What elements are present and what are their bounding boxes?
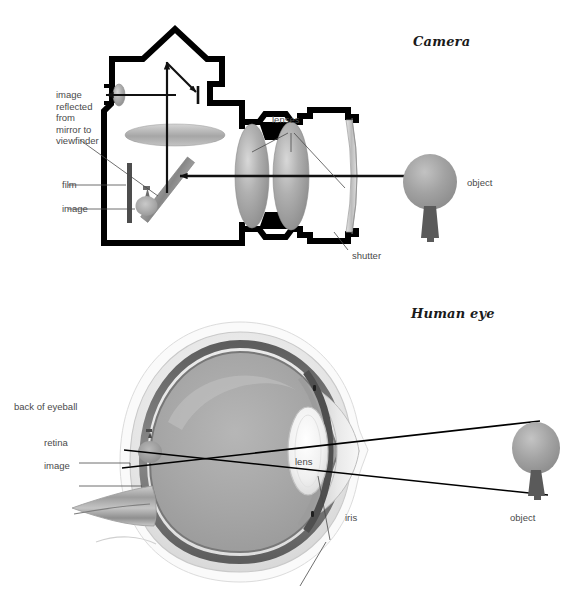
label-eye-image: image bbox=[44, 460, 70, 472]
focusing-screen bbox=[125, 124, 225, 146]
label-line-1: image bbox=[56, 89, 82, 100]
iris-anchor-bottom bbox=[311, 511, 314, 517]
leader-image-reflected bbox=[80, 140, 158, 196]
human-eye-figure: Human eye back of eyeball retina image l… bbox=[0, 290, 584, 603]
human-eye-figure-title: Human eye bbox=[411, 306, 495, 321]
label-retina: retina bbox=[44, 437, 68, 449]
optic-nerve bbox=[72, 486, 156, 526]
eye-lens bbox=[288, 407, 328, 495]
label-film: film bbox=[62, 179, 77, 191]
camera-top-outline bbox=[112, 29, 242, 129]
label-eye-object: object bbox=[510, 512, 535, 524]
film-image-tree bbox=[136, 186, 158, 216]
label-iris: iris bbox=[345, 512, 357, 524]
human-eye-diagram-svg bbox=[0, 290, 584, 603]
label-image-reflected-from-mirror-to-viewfinder: image reflected from mirror to viewfinde… bbox=[56, 89, 130, 147]
eye-object-tree bbox=[512, 422, 560, 500]
label-shutter: shutter bbox=[352, 250, 381, 262]
label-image: image bbox=[62, 203, 88, 215]
camera-object-tree bbox=[403, 154, 457, 242]
label-line-3: from bbox=[56, 112, 75, 123]
label-back-of-eyeball: back of eyeball bbox=[14, 401, 77, 413]
label-line-4: mirror to bbox=[56, 124, 91, 135]
camera-figure: Camera image reflected from mirror to vi… bbox=[0, 0, 584, 290]
label-lens: lens bbox=[295, 456, 312, 468]
ray-prism-internal bbox=[167, 63, 196, 92]
diagram-page: Camera image reflected from mirror to vi… bbox=[0, 0, 584, 603]
label-line-2: reflected bbox=[56, 101, 92, 112]
iris-anchor-top bbox=[313, 385, 316, 391]
eyepiece-nub-top bbox=[104, 84, 114, 88]
film-strip bbox=[127, 163, 132, 223]
label-object: object bbox=[467, 177, 492, 189]
camera-figure-title: Camera bbox=[413, 34, 470, 49]
label-line-5: viewfinder bbox=[56, 135, 99, 146]
label-lenses: lenses bbox=[272, 114, 299, 126]
